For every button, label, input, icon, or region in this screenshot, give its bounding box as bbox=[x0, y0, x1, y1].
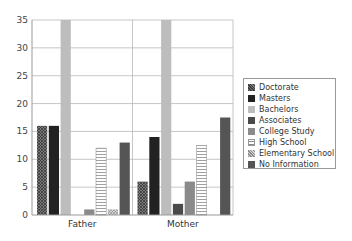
y-tick-label: 35 bbox=[17, 15, 28, 25]
legend-swatch-icon bbox=[248, 128, 255, 135]
bar-doctorate-father bbox=[37, 126, 47, 215]
x-category-label: Mother bbox=[167, 219, 199, 229]
legend-item: Associates bbox=[248, 115, 335, 126]
y-tick-label: 30 bbox=[17, 43, 29, 53]
legend-label: Associates bbox=[259, 115, 301, 126]
bar-high-school-mother bbox=[197, 145, 207, 215]
legend-swatch-icon bbox=[248, 106, 255, 113]
legend-swatch-icon bbox=[248, 117, 255, 124]
bar-bachelors-mother bbox=[161, 20, 171, 215]
y-tick-label: 15 bbox=[17, 126, 28, 136]
legend-item: College Study bbox=[248, 126, 335, 137]
legend-swatch-icon bbox=[248, 95, 255, 102]
bar-doctorate-mother bbox=[138, 182, 148, 215]
legend-label: No Information bbox=[259, 159, 319, 170]
legend-label: College Study bbox=[259, 126, 315, 137]
legend-item: High School bbox=[248, 137, 335, 148]
bar-bachelors-father bbox=[61, 20, 71, 215]
bar-masters-father bbox=[49, 126, 59, 215]
legend-item: Elementary School bbox=[248, 148, 335, 159]
bars bbox=[37, 20, 230, 215]
legend-label: High School bbox=[259, 137, 307, 148]
legend: DoctorateMastersBachelorsAssociatesColle… bbox=[243, 78, 336, 169]
bar-associates-mother bbox=[173, 204, 183, 215]
bar-no-information-mother bbox=[220, 118, 230, 216]
y-tick-label: 0 bbox=[22, 210, 28, 220]
legend-swatch-icon bbox=[248, 161, 255, 168]
bar-no-information-father bbox=[120, 143, 130, 215]
bar-high-school-father bbox=[96, 148, 106, 215]
legend-swatch-icon bbox=[248, 84, 255, 91]
legend-item: Doctorate bbox=[248, 82, 335, 93]
bar-masters-mother bbox=[149, 137, 159, 215]
legend-item: Masters bbox=[248, 93, 335, 104]
legend-swatch-icon bbox=[248, 150, 255, 157]
legend-label: Masters bbox=[259, 93, 291, 104]
legend-item: Bachelors bbox=[248, 104, 335, 115]
legend-swatch-icon bbox=[248, 139, 255, 146]
legend-label: Doctorate bbox=[259, 82, 299, 93]
legend-item: No Information bbox=[248, 159, 335, 170]
bar-elementary-school-father bbox=[108, 209, 118, 215]
legend-label: Elementary School bbox=[259, 148, 334, 159]
y-tick-label: 5 bbox=[22, 182, 28, 192]
legend-label: Bachelors bbox=[259, 104, 298, 115]
bar-college-study-mother bbox=[185, 182, 195, 215]
y-tick-label: 20 bbox=[17, 99, 29, 109]
x-category-label: Father bbox=[68, 219, 97, 229]
y-tick-label: 25 bbox=[17, 71, 28, 81]
y-tick-label: 10 bbox=[17, 154, 29, 164]
bar-college-study-father bbox=[84, 209, 94, 215]
